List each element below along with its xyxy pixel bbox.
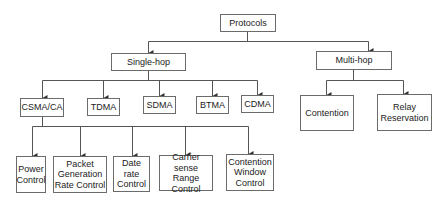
node-contention-window-control: Contention Window Control (226, 154, 274, 191)
node-relay-reservation: Relay Reservation (377, 94, 432, 131)
node-btma: BTMA (196, 96, 229, 114)
node-label: Protocols (229, 18, 267, 29)
node-label: Packet Generation Rate Control (55, 159, 106, 191)
node-csma-ca: CSMA/CA (20, 98, 64, 117)
node-label: Contention Window Control (228, 157, 272, 189)
node-label: Single-hop (127, 57, 170, 68)
node-label: BTMA (200, 100, 225, 111)
node-label: CSMA/CA (21, 102, 62, 113)
node-label: Relay Reservation (380, 102, 428, 123)
node-label: Power Control (17, 164, 46, 185)
node-packet-generation-rate-control: Packet Generation Rate Control (53, 156, 107, 193)
node-single-hop: Single-hop (111, 53, 186, 71)
node-tdma: TDMA (87, 98, 120, 116)
node-sdma: SDMA (143, 96, 176, 114)
node-contention: Contention (300, 95, 354, 131)
node-cdma: CDMA (241, 95, 274, 113)
node-protocols: Protocols (220, 14, 276, 32)
node-label: TDMA (91, 102, 117, 113)
node-label: Multi-hop (335, 55, 372, 66)
node-multi-hop: Multi-hop (316, 51, 392, 70)
node-carrier-sense-range-control: Carrier sense Range Control (159, 155, 213, 191)
node-label: Carrier sense Range Control (160, 152, 212, 194)
node-label: Contention (305, 108, 349, 119)
node-date-rate-control: Date rate Control (113, 156, 150, 192)
node-label: SDMA (146, 100, 172, 111)
node-label: Date rate Control (114, 158, 149, 190)
node-label: CDMA (244, 99, 271, 110)
protocol-tree-diagram: Protocols Single-hop Multi-hop CSMA/CA T… (0, 0, 448, 203)
node-power-control: Power Control (16, 156, 46, 193)
